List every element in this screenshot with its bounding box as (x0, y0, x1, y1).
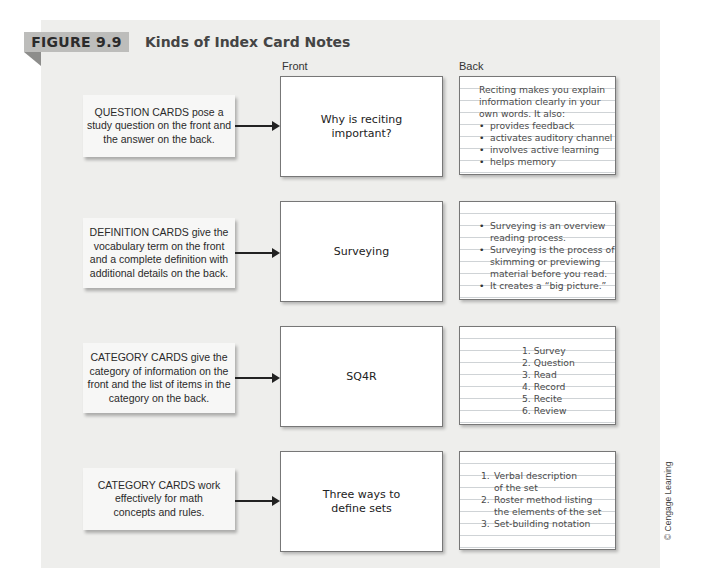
back-card-bullet: It creates a “big picture.” (479, 280, 615, 292)
back-card-list-item: 3.Set-building notation (481, 518, 615, 530)
front-card-question: Why is reciting important? (280, 76, 443, 177)
back-card-line: of the set (481, 482, 615, 494)
back-card-question: Reciting makes you explain information c… (459, 76, 616, 175)
back-card-line: Reciting makes you explain (479, 84, 615, 96)
list-number: 2. (481, 494, 494, 506)
back-card-list-item: 1. Survey (522, 345, 615, 357)
front-card-text: Surveying (334, 245, 389, 259)
description-text: CATEGORY CARDS give the category of info… (87, 351, 232, 405)
front-card-definition: Surveying (280, 201, 443, 302)
column-header-front: Front (282, 60, 308, 72)
back-card-line: reading process. (479, 232, 615, 244)
description-math-category-cards: CATEGORY CARDS work effectively for math… (83, 468, 235, 530)
arrow-right-icon (235, 377, 278, 379)
copyright-credit: © Cengage Learning (663, 461, 673, 540)
back-card-bullet: provides feedback (479, 120, 615, 132)
list-text: Set-building notation (494, 518, 590, 529)
figure-title: Kinds of Index Card Notes (145, 32, 350, 52)
back-card-list-item: 3. Read (522, 369, 615, 381)
back-card-category: 1. Survey 2. Question 3. Read 4. Record … (459, 326, 616, 425)
front-card-math: Three ways to define sets (280, 451, 443, 552)
arrow-right-icon (235, 252, 278, 254)
back-card-bullet: Surveying is an overview (479, 220, 615, 232)
list-text: Verbal description (494, 470, 577, 481)
back-card-list-item: 5. Recite (522, 393, 615, 405)
back-card-math: 1.Verbal description of the set 2.Roster… (459, 451, 616, 550)
front-card-text: SQ4R (346, 370, 376, 384)
figure-label: FIGURE 9.9 (24, 32, 129, 52)
figure-tab-fold (24, 52, 41, 66)
back-card-line: material before you read. (479, 268, 615, 280)
description-text: CATEGORY CARDS work effectively for math… (97, 479, 222, 520)
back-card-bullet: activates auditory channel (479, 132, 615, 144)
front-card-text: Three ways to define sets (317, 488, 407, 516)
back-card-line: own words. It also: (479, 108, 615, 120)
back-card-list-item: 4. Record (522, 381, 615, 393)
back-card-line: skimming or previewing (479, 256, 615, 268)
column-header-back: Back (459, 60, 483, 72)
back-card-list-item: 2. Question (522, 357, 615, 369)
back-card-bullet: helps memory (479, 156, 615, 168)
description-text: DEFINITION CARDS give the vocabulary ter… (87, 226, 232, 280)
front-card-category: SQ4R (280, 326, 443, 427)
back-card-bullet: Surveying is the process of (479, 244, 615, 256)
back-card-line: information clearly in your (479, 96, 615, 108)
back-card-bullet: involves active learning (479, 144, 615, 156)
list-text: Roster method listing (494, 494, 592, 505)
front-card-text: Why is reciting important? (307, 113, 417, 141)
back-card-list-item: 6. Review (522, 405, 615, 417)
arrow-right-icon (235, 500, 278, 502)
list-number: 3. (481, 518, 494, 530)
back-card-list-item: 2.Roster method listing (481, 494, 615, 506)
list-number: 1. (481, 470, 494, 482)
back-card-list-item: 1.Verbal description (481, 470, 615, 482)
back-card-line: the elements of the set (481, 506, 615, 518)
description-definition-cards: DEFINITION CARDS give the vocabulary ter… (83, 218, 235, 288)
back-card-definition: Surveying is an overview reading process… (459, 201, 616, 300)
arrow-right-icon (235, 125, 278, 127)
description-category-cards: CATEGORY CARDS give the category of info… (83, 343, 235, 413)
description-question-cards: QUESTION CARDS pose a study question on … (83, 95, 235, 157)
